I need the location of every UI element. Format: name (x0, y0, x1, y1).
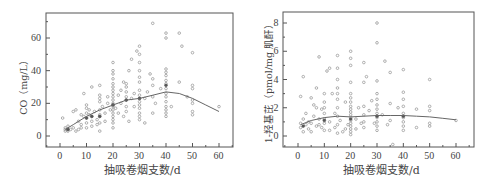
data-point (313, 104, 316, 107)
x-tick-label: 30 (372, 151, 382, 161)
data-point (323, 112, 326, 115)
data-point (334, 112, 337, 115)
data-point (328, 67, 331, 70)
data-point (349, 101, 352, 104)
data-point (376, 125, 379, 128)
y-tick-label: 6 (274, 46, 279, 56)
data-point (326, 70, 329, 73)
data-point (402, 98, 405, 101)
data-point (428, 125, 431, 128)
data-point (313, 115, 316, 118)
x-tick-label: 60 (451, 151, 461, 161)
hydroxypyrene-plot-area (0, 0, 492, 187)
data-point (341, 130, 344, 133)
data-point (323, 122, 326, 125)
data-point (428, 122, 431, 125)
x-tick-label: 50 (424, 151, 434, 161)
data-point (323, 101, 326, 104)
data-point (315, 87, 318, 90)
data-point (355, 118, 358, 121)
data-point (349, 114, 352, 117)
data-point (363, 105, 366, 108)
data-point (336, 132, 339, 135)
data-point (299, 95, 302, 98)
data-point (402, 125, 405, 128)
data-point (349, 92, 352, 95)
data-point (349, 111, 352, 114)
data-point (315, 106, 318, 109)
data-point (402, 112, 405, 115)
data-point (349, 133, 352, 136)
data-point (376, 98, 379, 101)
data-point (376, 104, 379, 107)
data-point (336, 54, 339, 57)
x-tick-label: 10 (319, 151, 329, 161)
data-point (323, 129, 326, 132)
data-point (355, 128, 358, 131)
data-point (349, 64, 352, 67)
data-point (389, 71, 392, 74)
data-point (344, 128, 347, 131)
data-point (323, 106, 326, 109)
data-point (334, 126, 337, 129)
data-point (402, 68, 405, 71)
data-point (376, 22, 379, 25)
data-point (336, 92, 339, 95)
data-point (402, 91, 405, 94)
mean-point (302, 125, 305, 128)
data-point (310, 122, 313, 125)
data-point (349, 125, 352, 128)
data-point (376, 129, 379, 132)
data-point (315, 125, 318, 128)
data-point (336, 123, 339, 126)
data-point (363, 126, 366, 129)
data-point (328, 121, 331, 124)
data-point (310, 130, 313, 133)
data-point (349, 57, 352, 60)
data-point (320, 126, 323, 129)
data-point (299, 126, 302, 129)
data-point (310, 97, 313, 100)
data-point (389, 102, 392, 105)
data-point (397, 106, 400, 109)
data-point (349, 105, 352, 108)
data-point (415, 126, 418, 129)
data-point (336, 106, 339, 109)
data-point (318, 123, 321, 126)
data-point (302, 118, 305, 121)
data-point (376, 92, 379, 95)
data-point (305, 123, 308, 126)
data-point (347, 123, 350, 126)
data-point (336, 87, 339, 90)
data-point (349, 122, 352, 125)
data-point (302, 130, 305, 133)
data-point (384, 60, 387, 63)
x-tick-label: 0 (295, 151, 300, 161)
data-point (368, 109, 371, 112)
data-point (357, 106, 360, 109)
data-point (370, 99, 373, 102)
data-point (428, 109, 431, 112)
data-point (302, 75, 305, 78)
y-tick-label: 2 (274, 103, 279, 113)
data-point (305, 112, 308, 115)
data-point (344, 101, 347, 104)
data-point (320, 108, 323, 111)
data-point (402, 129, 405, 132)
data-point (363, 81, 366, 84)
data-point (349, 50, 352, 53)
data-point (339, 119, 342, 122)
data-point (376, 41, 379, 44)
data-point (392, 143, 395, 146)
data-point (402, 121, 405, 124)
data-point (363, 61, 366, 64)
data-point (318, 56, 321, 59)
data-point (349, 130, 352, 133)
data-point (389, 119, 392, 122)
mean-point (323, 119, 326, 122)
data-point (328, 129, 331, 132)
data-point (376, 80, 379, 83)
data-point (365, 75, 368, 78)
data-point (386, 123, 389, 126)
data-point (336, 67, 339, 70)
